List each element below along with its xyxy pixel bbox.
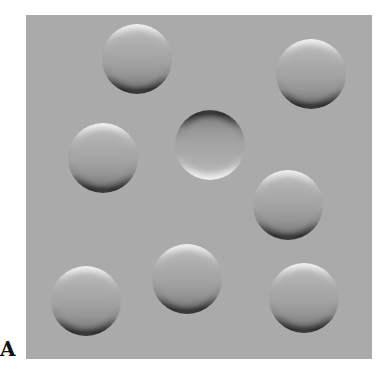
convex-disc xyxy=(276,39,346,109)
shading-panel xyxy=(26,15,372,359)
convex-disc xyxy=(152,244,222,314)
convex-disc xyxy=(269,263,339,333)
concave-disc xyxy=(175,110,245,180)
panel-label: A xyxy=(0,338,16,360)
convex-disc xyxy=(253,170,323,240)
convex-disc xyxy=(51,266,121,336)
convex-disc xyxy=(102,24,172,94)
convex-disc xyxy=(68,123,138,193)
